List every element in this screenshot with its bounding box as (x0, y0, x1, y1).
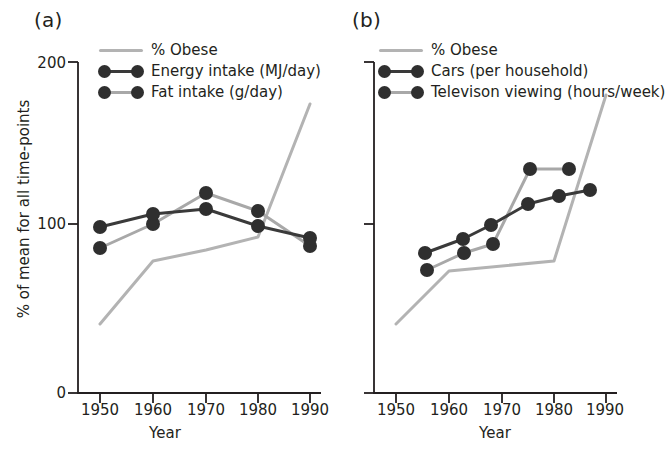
panel-b-plot (330, 0, 660, 455)
panel-b-axes (364, 62, 617, 403)
panel-a-markers-energy (93, 202, 317, 245)
panel-a-plot (0, 0, 330, 455)
panel-b-series-obese (396, 95, 606, 324)
panel-a: (a) % of mean for all time-points Year 2… (0, 0, 330, 455)
panel-b: (b) Year 1950 1960 1970 1980 1990 % Obes… (330, 0, 660, 455)
